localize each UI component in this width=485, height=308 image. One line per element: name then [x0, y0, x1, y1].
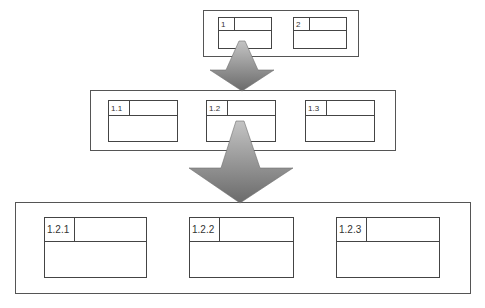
- down-arrow-icon: [0, 0, 485, 308]
